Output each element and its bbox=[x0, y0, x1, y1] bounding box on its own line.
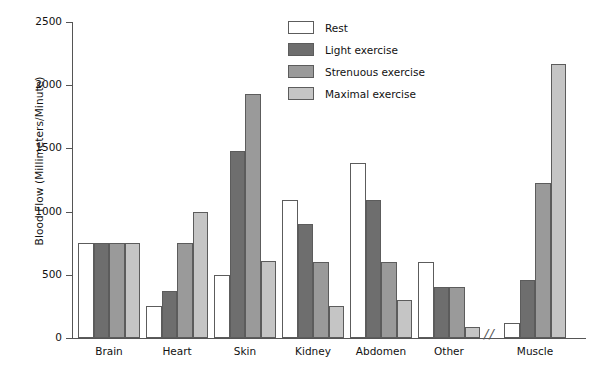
bar bbox=[109, 243, 125, 338]
legend-label-strenuous-exercise: Strenuous exercise bbox=[325, 66, 425, 78]
bar bbox=[94, 243, 110, 338]
x-axis-line bbox=[72, 338, 586, 339]
axis-break-marker: // bbox=[484, 327, 495, 340]
legend-label-light-exercise: Light exercise bbox=[325, 44, 398, 56]
bar bbox=[177, 243, 193, 338]
bar bbox=[214, 275, 230, 338]
x-axis-label-brain: Brain bbox=[95, 345, 123, 357]
bar bbox=[449, 287, 465, 338]
y-tick-label: 2500 bbox=[2, 15, 62, 27]
bar bbox=[245, 94, 261, 338]
bar bbox=[146, 306, 162, 338]
y-tick-label: 1000 bbox=[2, 205, 62, 217]
bar bbox=[78, 243, 94, 338]
bar bbox=[350, 163, 366, 338]
x-axis-label-muscle: Muscle bbox=[517, 345, 553, 357]
y-tick-label: 2000 bbox=[2, 78, 62, 90]
legend-item-light-exercise: Light exercise bbox=[288, 40, 425, 59]
y-tick-label: 500 bbox=[2, 268, 62, 280]
bar bbox=[551, 64, 567, 338]
bar bbox=[520, 280, 536, 338]
y-axis-title: Blood Flow (Millimeters/Minute) bbox=[33, 26, 45, 296]
legend-label-maximal-exercise: Maximal exercise bbox=[325, 88, 416, 100]
legend-item-rest: Rest bbox=[288, 18, 425, 37]
bar bbox=[125, 243, 141, 338]
legend-swatch-rest bbox=[288, 21, 314, 34]
bar bbox=[465, 327, 481, 338]
bar bbox=[381, 262, 397, 338]
bar bbox=[261, 261, 277, 338]
y-tick-label: 0 bbox=[2, 331, 62, 343]
x-axis-label-abdomen: Abdomen bbox=[356, 345, 406, 357]
x-axis-label-skin: Skin bbox=[234, 345, 256, 357]
bar bbox=[193, 212, 209, 338]
bar bbox=[162, 291, 178, 338]
legend-swatch-strenuous-exercise bbox=[288, 65, 314, 78]
chart-legend: Rest Light exercise Strenuous exercise M… bbox=[288, 18, 425, 106]
legend-swatch-light-exercise bbox=[288, 43, 314, 56]
bar bbox=[397, 300, 413, 338]
legend-swatch-maximal-exercise bbox=[288, 87, 314, 100]
x-axis-label-other: Other bbox=[434, 345, 464, 357]
bar bbox=[535, 183, 551, 338]
legend-item-strenuous-exercise: Strenuous exercise bbox=[288, 62, 425, 81]
bar bbox=[329, 306, 345, 338]
bar bbox=[313, 262, 329, 338]
y-tick-label: 1500 bbox=[2, 141, 62, 153]
bar bbox=[230, 151, 246, 338]
bar bbox=[434, 287, 450, 338]
x-axis-label-kidney: Kidney bbox=[295, 345, 331, 357]
bar bbox=[282, 200, 298, 338]
bar bbox=[504, 323, 520, 338]
legend-label-rest: Rest bbox=[325, 22, 348, 34]
x-axis-label-heart: Heart bbox=[162, 345, 191, 357]
bar bbox=[298, 224, 314, 338]
blood-flow-bar-chart: Blood Flow (Millimeters/Minute) 05001000… bbox=[0, 0, 596, 372]
legend-item-maximal-exercise: Maximal exercise bbox=[288, 84, 425, 103]
bar bbox=[418, 262, 434, 338]
bar bbox=[366, 200, 382, 338]
